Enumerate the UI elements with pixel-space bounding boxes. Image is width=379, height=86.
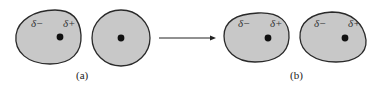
- panel-a-right-particle: [92, 10, 150, 66]
- nucleus-icon: [265, 35, 272, 42]
- delta-plus-label: δ+: [63, 17, 76, 29]
- delta-minus-label: δ−: [31, 17, 44, 29]
- caption-b: (b): [290, 69, 303, 82]
- arrow-icon: [159, 36, 216, 41]
- nucleus-icon: [57, 34, 64, 41]
- delta-plus-label: δ+: [348, 17, 361, 29]
- induced-dipole-diagram: δ− δ+ (a) δ− δ+ δ− δ+ (b): [0, 0, 379, 86]
- panel-b-left-particle: δ− δ+: [224, 13, 289, 62]
- delta-minus-label: δ−: [238, 17, 251, 29]
- nucleus-icon: [342, 35, 349, 42]
- panel-b-right-particle: δ− δ+: [300, 12, 366, 62]
- panel-a-left-particle: δ− δ+: [16, 10, 81, 64]
- delta-minus-label: δ−: [314, 17, 327, 29]
- nucleus-icon: [118, 35, 125, 42]
- caption-a: (a): [76, 69, 89, 82]
- delta-plus-label: δ+: [270, 17, 283, 29]
